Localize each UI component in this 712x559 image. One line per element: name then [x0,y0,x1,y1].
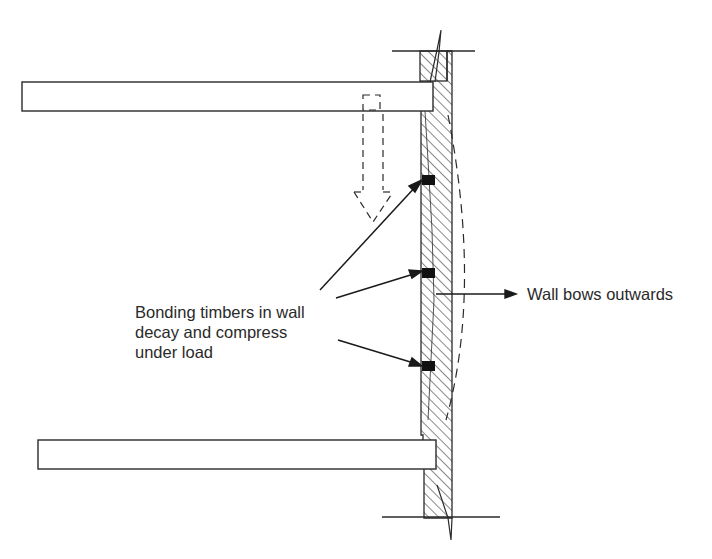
bonding-timbers-label-line2: decay and compress [135,322,287,342]
bonding-timbers-label-line1: Bonding timbers in wall [135,302,305,322]
bonding-timber-3 [422,361,435,371]
bonding-timbers-label-line3: under load [135,342,213,362]
leader-arrows [320,180,422,366]
load-arrow-icon [354,95,393,222]
lower-floor-beam [38,440,436,469]
bonding-timber-1 [422,175,435,185]
bonding-timber-2 [422,268,435,278]
wall-bows-label: Wall bows outwards [527,284,673,304]
diagram-canvas [0,0,712,559]
upper-floor-beam [22,82,433,111]
